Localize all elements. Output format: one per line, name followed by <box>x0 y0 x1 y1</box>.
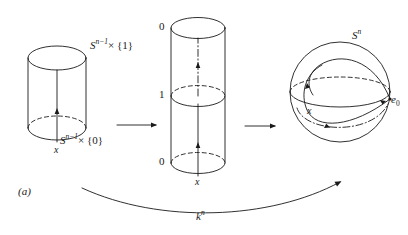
middle-cylinder-lower-arrowhead <box>196 142 201 148</box>
arrow-middle-to-sphere <box>245 123 276 128</box>
sphere-meridian-loop <box>304 65 390 123</box>
left-cylinder-top-label: Sn−1× {1} <box>90 38 133 51</box>
middle-cylinder-bottom-label: 0 <box>159 156 165 167</box>
sphere-equator-back <box>290 77 390 92</box>
left-cylinder-fibre-arrowhead <box>55 108 60 114</box>
arrow-left-to-middle <box>117 122 157 127</box>
curved-arrow-label: kn <box>196 209 205 222</box>
left-cylinder-bottom-label: Sn−1× {0} <box>60 133 103 146</box>
middle-cylinder-top-ellipse <box>171 18 225 39</box>
sphere-point-label: x <box>307 106 311 116</box>
sphere-group <box>290 42 392 142</box>
middle-cylinder-basepoint-label: x <box>195 177 199 187</box>
middle-cylinder-group <box>171 18 225 177</box>
sphere-basepoint-label: e0 <box>391 94 400 108</box>
sphere-upper-cap-curve <box>309 59 390 99</box>
left-cylinder-top-ellipse <box>28 46 86 70</box>
middle-cylinder-upper-arrowhead <box>196 62 201 68</box>
middle-cylinder-top-label: 0 <box>159 21 165 32</box>
figure-canvas <box>0 0 408 235</box>
middle-cylinder-middle-label: 1 <box>159 89 165 100</box>
curved-arrow-k-n <box>82 181 342 213</box>
left-cylinder-group <box>28 46 86 142</box>
panel-tag: (a) <box>18 186 31 197</box>
sphere-dashdot-arrowhead <box>324 124 330 128</box>
left-cylinder-basepoint-label: x <box>54 145 58 155</box>
sphere-label: Sn <box>352 28 361 41</box>
